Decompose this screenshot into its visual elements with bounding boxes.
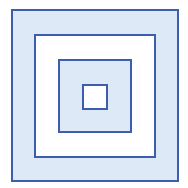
inner-square <box>82 84 108 110</box>
